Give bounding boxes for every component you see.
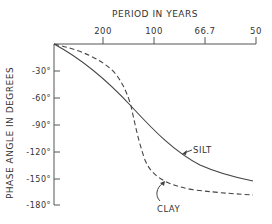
- y-tick-label-60: -60°: [32, 94, 51, 103]
- y-tick-label-90: -90°: [32, 121, 51, 130]
- silt-annotation: SILT: [182, 145, 212, 155]
- phase-angle-chart: PERIOD IN YEARS 200 100 66.7 50 -30° -60…: [0, 0, 272, 224]
- x-tick-label-200: 200: [94, 26, 112, 36]
- y-axis-title: PHASE ANGLE IN DEGREES: [5, 67, 15, 199]
- silt-curve: [54, 44, 253, 181]
- y-tick-label-180: -180°: [26, 201, 51, 210]
- x-tick-label-100: 100: [145, 26, 163, 36]
- y-tick-label-120: -120°: [26, 148, 51, 157]
- x-axis-title: PERIOD IN YEARS: [112, 9, 198, 19]
- clay-label: CLAY: [157, 204, 181, 214]
- x-tick-label-50: 50: [250, 26, 262, 36]
- silt-label: SILT: [193, 145, 212, 155]
- x-ticks: [103, 37, 256, 44]
- y-ticks: [54, 71, 60, 205]
- y-tick-label-30: -30°: [32, 67, 51, 76]
- clay-curve: [54, 44, 253, 195]
- y-tick-label-150: -150°: [26, 175, 51, 184]
- x-tick-label-66-7: 66.7: [195, 26, 216, 36]
